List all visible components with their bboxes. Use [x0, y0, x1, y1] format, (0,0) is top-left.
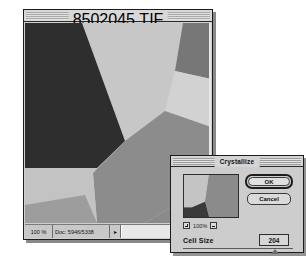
cell-size-label: Cell Size [183, 237, 214, 244]
zoom-level-field[interactable]: 100 % [25, 225, 53, 238]
document-titlebar[interactable]: 8502045.TIF @ 100% (RGB) [24, 10, 212, 22]
preview-zoom-controls[interactable]: 100% [183, 221, 241, 230]
preview-zoom-percent: 100% [193, 223, 207, 229]
preview-image [184, 175, 238, 217]
ok-default-ring: OK [245, 174, 293, 189]
dialog-title-background: Crystallize [215, 156, 260, 167]
cell-size-input[interactable]: 204 [259, 234, 289, 246]
dialog-title: Crystallize [220, 158, 255, 165]
document-size-field[interactable]: Doc: 5946/5338 [53, 225, 110, 238]
ok-button[interactable]: OK [248, 177, 290, 186]
preview-region-mid [205, 175, 238, 217]
dialog-body: 100% OK Cancel Cell Size 204 [171, 167, 303, 252]
preview-thumbnail[interactable] [183, 174, 239, 218]
zoom-in-icon[interactable] [183, 222, 190, 229]
crystallize-dialog[interactable]: Crystallize 100% OK Cancel Cell Size 204 [170, 155, 304, 253]
document-title-background: 8502045.TIF @ 100% (RGB) [69, 11, 168, 21]
status-popup-arrow-icon[interactable]: ▸ [110, 225, 121, 238]
cancel-button[interactable]: Cancel [247, 193, 291, 205]
dialog-titlebar[interactable]: Crystallize [171, 156, 303, 167]
cell-size-slider-thumb[interactable] [271, 249, 279, 254]
zoom-out-icon[interactable] [210, 222, 217, 229]
